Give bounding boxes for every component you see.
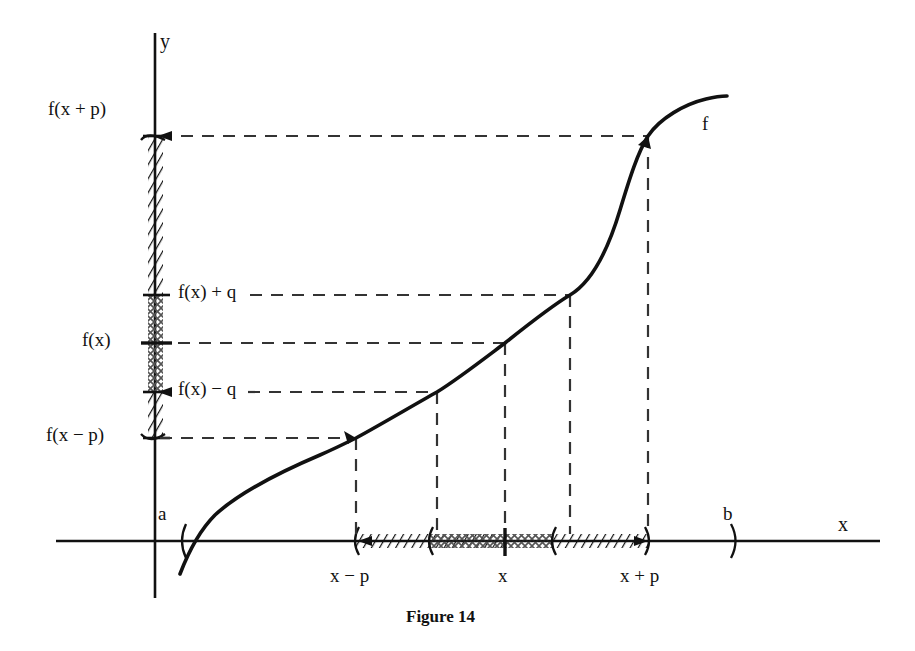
y-axis-label: y bbox=[160, 30, 170, 53]
leader-arrowheads bbox=[158, 131, 648, 546]
x-tick-label-x-minus-p: x − p bbox=[330, 565, 369, 587]
curve-label-f: f bbox=[702, 113, 708, 135]
endpoint-markers bbox=[141, 136, 736, 559]
y-tick-label-f-x-plus-q: f(x) + q bbox=[178, 281, 236, 303]
x-interval-bars bbox=[356, 534, 648, 548]
y-hatch-lower bbox=[148, 392, 163, 438]
figure-svg bbox=[0, 0, 915, 651]
endpoint-label-a: a bbox=[158, 503, 166, 525]
y-tick-label-f-x-minus-p: f(x − p) bbox=[46, 424, 104, 446]
y-hatch-upper bbox=[148, 136, 163, 295]
y-tick-label-f-x-minus-q: f(x) − q bbox=[178, 378, 236, 400]
figure-14-container: y x f f(x + p) f(x) + q f(x) f(x) − q f(… bbox=[0, 0, 915, 651]
curve-point-markers bbox=[344, 136, 651, 444]
x-axis-label: x bbox=[838, 513, 848, 536]
axes-group bbox=[56, 33, 880, 598]
function-curve-f bbox=[180, 96, 727, 574]
figure-caption: Figure 14 bbox=[406, 607, 475, 627]
vertical-dashed-lines bbox=[356, 136, 648, 534]
y-tick-label-f-x: f(x) bbox=[82, 329, 110, 351]
x-tick-label-x: x bbox=[498, 565, 508, 587]
endpoint-label-b: b bbox=[723, 503, 733, 525]
y-tick-label-f-x-plus-p: f(x + p) bbox=[48, 98, 106, 120]
x-tick-label-x-plus-p: x + p bbox=[620, 565, 659, 587]
